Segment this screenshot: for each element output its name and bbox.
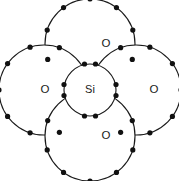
electron-dot-bond-si-o-right-0 <box>113 82 118 87</box>
electron-dot-oxygen-right-5 <box>118 45 123 50</box>
electron-dot-oxygen-right-4 <box>147 130 152 135</box>
electron-dot-oxygen-left-6 <box>57 130 62 135</box>
atom-label-oxygen-right: O <box>150 83 159 95</box>
electron-dot-bond-si-o-top-1 <box>93 61 98 66</box>
electron-dot-bond-si-o-left-1 <box>61 93 66 98</box>
atom-label-oxygen-top: O <box>102 37 111 49</box>
electron-dot-oxygen-bottom-1 <box>114 170 119 175</box>
electron-dot-oxygen-left-4 <box>27 130 32 135</box>
electron-dot-oxygen-left-5 <box>57 45 62 50</box>
electron-dot-bond-si-o-top-0 <box>82 61 87 66</box>
electron-dot-oxygen-right-1 <box>170 61 175 66</box>
electron-dot-oxygen-bottom-6 <box>45 118 50 123</box>
electron-dot-oxygen-left-3 <box>27 45 32 50</box>
electron-dot-oxygen-top-1 <box>114 5 119 10</box>
electron-dot-bond-si-o-right-1 <box>113 93 118 98</box>
atom-label-oxygen-bottom: O <box>102 129 111 141</box>
atom-label-oxygen-left: O <box>41 83 50 95</box>
electron-dot-oxygen-left-1 <box>5 61 10 66</box>
atom-label-central-silicon: Si <box>85 83 95 95</box>
electron-dot-oxygen-right-3 <box>147 45 152 50</box>
lewis-structure-diagram: OOOOSi <box>0 0 179 181</box>
electron-dot-oxygen-top-4 <box>45 27 50 32</box>
lewis-structure-canvas: OOOOSi <box>0 0 179 181</box>
electron-dot-oxygen-bottom-4 <box>45 147 50 152</box>
electron-dot-oxygen-top-3 <box>130 27 135 32</box>
electron-dot-oxygen-top-2 <box>61 5 66 10</box>
electron-dot-bond-si-o-left-0 <box>61 82 66 87</box>
electron-dot-oxygen-bottom-3 <box>130 147 135 152</box>
electron-dot-oxygen-bottom-2 <box>61 170 66 175</box>
electron-dot-bond-si-o-bottom-0 <box>82 113 87 118</box>
electron-dot-oxygen-top-6 <box>45 57 50 62</box>
electron-dot-bond-si-o-bottom-1 <box>93 113 98 118</box>
electron-dot-oxygen-left-2 <box>5 114 10 119</box>
electron-dot-oxygen-right-6 <box>118 130 123 135</box>
electron-dot-oxygen-top-5 <box>130 57 135 62</box>
electron-dot-oxygen-bottom-5 <box>130 118 135 123</box>
electron-dot-oxygen-right-2 <box>170 114 175 119</box>
